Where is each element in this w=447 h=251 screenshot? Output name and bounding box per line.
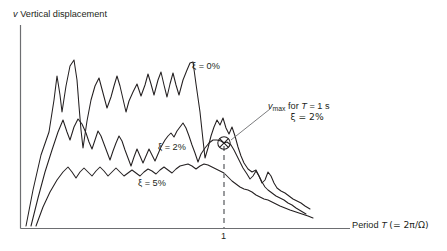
vmax-subscript: max (273, 105, 286, 112)
x-axis-formula: (= 2π/Ω) (389, 219, 428, 230)
x-axis-text: Period (352, 220, 379, 230)
vmax-annotation: vmax for T = 1 s ξ = 2% (268, 101, 330, 122)
series-label-damping-5: ξ = 5% (138, 178, 166, 189)
chart-canvas (0, 0, 447, 251)
vmax-symbol: v (268, 101, 273, 111)
annotation-leader-line (231, 109, 270, 140)
series-label-damping-0: ξ = 0% (192, 61, 220, 72)
y-axis-text: Vertical displacement (20, 9, 107, 19)
figure-container: v Vertical displacement Period T (= 2π/Ω… (0, 0, 447, 251)
x-axis-label: Period T (= 2π/Ω) (352, 220, 429, 231)
curve-damping-5 (36, 164, 313, 226)
series-label-damping-2: ξ = 2% (158, 142, 186, 153)
vmax-period-value: = 1 s (307, 101, 330, 111)
vmax-damping-value: ξ = 2% (268, 112, 330, 123)
y-axis-label: v Vertical displacement (13, 9, 107, 20)
x-tick-label-1: 1 (221, 231, 226, 242)
vmax-for-text: for (285, 101, 301, 111)
